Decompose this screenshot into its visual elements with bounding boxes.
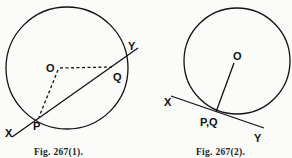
label-p: P [33,120,40,132]
label-x: X [5,127,13,139]
label-q: Q [113,71,122,83]
radius-o-to-pq [216,63,234,112]
figure-267-1: O Q P X Y Fig. 267(1). [5,7,138,158]
label-y: Y [254,132,262,144]
caption-fig2: Fig. 267(2). [196,147,245,158]
label-o: O [233,50,242,62]
caption-fig1: Fig. 267(1). [34,147,83,158]
label-o: O [46,62,55,74]
figure-267-2: O P,Q X Y Fig. 267(2). [164,8,290,158]
dashed-radius-oq [60,67,112,68]
dashed-radius-op [39,70,58,117]
secant-line-xy [12,48,138,137]
geometry-figures: O Q P X Y Fig. 267(1). O P,Q X Y Fig. 26… [0,0,292,158]
label-y: Y [128,40,136,52]
label-x: X [164,96,172,108]
label-pq: P,Q [200,116,218,128]
